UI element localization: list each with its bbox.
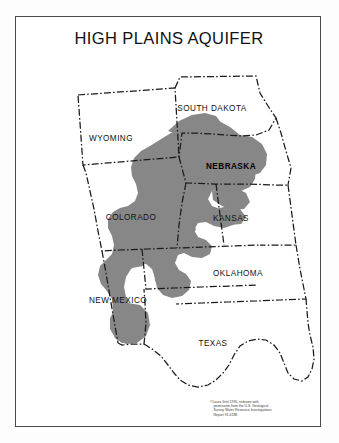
high-plains-aquifer-map: SOUTH DAKOTA WYOMING NEBRASKA COLORADO K… [16,73,322,393]
map-figure-frame: HIGH PLAINS AQUIFER [15,16,321,427]
state-label-kansas: KANSAS [213,214,249,223]
state-border-texas-south [144,299,314,387]
state-label-wyoming: WYOMING [89,134,133,143]
state-label-colorado: COLORADO [106,213,156,222]
aquifer-extent-shape [98,113,267,344]
state-label-new-mexico: NEW MEXICO [89,296,147,305]
attribution-credit: ©Laura Gritt 1995, redrawn with permissi… [210,400,306,417]
state-label-nebraska: NEBRASKA [206,162,256,171]
credit-line-4: Report 91-4188 [210,413,306,417]
figure-canvas: HIGH PLAINS AQUIFER [0,0,339,443]
page-title: HIGH PLAINS AQUIFER [16,29,322,48]
state-label-texas: TEXAS [198,339,227,348]
map-container: SOUTH DAKOTA WYOMING NEBRASKA COLORADO K… [16,73,322,393]
state-label-south-dakota: SOUTH DAKOTA [177,104,246,113]
state-label-oklahoma: OKLAHOMA [213,269,263,278]
